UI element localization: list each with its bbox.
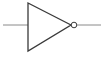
inversion-bubble bbox=[71, 22, 77, 28]
not-gate-svg bbox=[0, 0, 103, 62]
not-gate-diagram: NOT gate (inverter) bbox=[0, 0, 103, 62]
gate-triangle bbox=[28, 3, 71, 51]
